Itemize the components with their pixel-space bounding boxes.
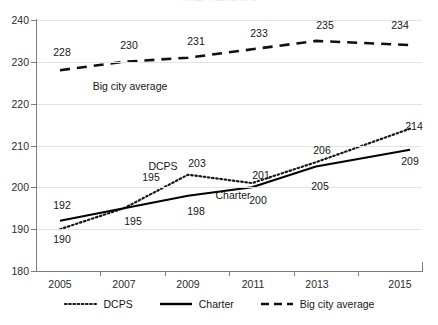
point-label-big-city-2011: 233	[250, 28, 268, 39]
chart-title: NAEP READING	[0, 0, 438, 3]
line-charter	[60, 150, 410, 221]
point-label-big-city-2007: 230	[120, 40, 138, 51]
gridline-220	[36, 104, 422, 105]
legend-swatch-dotted-icon	[64, 299, 98, 309]
x-tick-label-2009: 2009	[166, 279, 210, 290]
legend-label-big-city-average: Big city average	[300, 299, 375, 310]
chart-legend: DCPS Charter Big city average	[0, 299, 438, 310]
point-label-charter-2015: 209	[401, 156, 419, 167]
y-tick-label-210: 210	[2, 141, 29, 152]
x-tick-label-2011: 2011	[231, 279, 275, 290]
y-tick-210	[31, 146, 36, 147]
y-tick-label-190: 190	[2, 224, 29, 235]
y-tick-label-200: 200	[2, 182, 29, 193]
gridline-240	[36, 20, 422, 21]
point-label-dcps-2009: 203	[188, 158, 206, 169]
x-tick-2007	[165, 271, 166, 276]
gridline-190	[36, 229, 422, 230]
x-tick-2009	[229, 271, 230, 276]
x-tick-label-2007: 2007	[102, 279, 146, 290]
line-big-city-average	[60, 41, 410, 70]
point-label-dcps-2015: 214	[405, 121, 423, 132]
x-tick-2011	[294, 271, 295, 276]
y-tick-190	[31, 229, 36, 230]
point-label-dcps-2011: 201	[252, 170, 270, 181]
legend-swatch-solid-icon	[159, 299, 193, 309]
point-label-dcps-2007: 195	[142, 172, 160, 183]
y-tick-label-240: 240	[2, 15, 29, 26]
inline-label-big-city-average: Big city average	[93, 81, 168, 92]
legend-item-charter[interactable]: Charter	[159, 299, 234, 310]
point-label-big-city-2013: 235	[316, 20, 334, 31]
legend-item-big-city-average[interactable]: Big city average	[260, 299, 375, 310]
gridline-230	[36, 62, 422, 63]
point-label-charter-2009: 198	[187, 206, 205, 217]
x-tick-label-2013: 2013	[295, 279, 339, 290]
y-tick-label-230: 230	[2, 57, 29, 68]
legend-swatch-dashed-icon	[260, 299, 294, 309]
inline-label-dcps: DCPS	[148, 161, 177, 172]
point-label-dcps-2013: 206	[313, 145, 331, 156]
plot-area	[36, 20, 422, 271]
y-tick-220	[31, 104, 36, 105]
point-label-charter-2007: 195	[124, 216, 142, 227]
y-axis-line	[36, 19, 37, 272]
legend-label-dcps: DCPS	[104, 299, 133, 310]
point-label-big-city-2015: 234	[391, 20, 409, 31]
line-dcps	[60, 129, 410, 230]
gridline-210	[36, 146, 422, 147]
y-tick-230	[31, 62, 36, 63]
x-tick-2013	[358, 271, 359, 276]
point-label-big-city-2009: 231	[187, 36, 205, 47]
point-label-charter-2005: 192	[53, 200, 71, 211]
point-label-charter-2011: 200	[249, 195, 267, 206]
legend-label-charter: Charter	[199, 299, 234, 310]
inline-label-charter: Charter	[215, 190, 250, 201]
point-label-big-city-2005: 228	[53, 47, 71, 58]
y-tick-label-180: 180	[2, 266, 29, 277]
x-tick-label-2015: 2015	[378, 279, 422, 290]
x-tick-2005	[100, 271, 101, 276]
point-label-charter-2013: 205	[311, 181, 329, 192]
point-label-dcps-2005: 190	[53, 234, 71, 245]
y-tick-180	[31, 271, 36, 272]
legend-item-dcps[interactable]: DCPS	[64, 299, 133, 310]
x-axis-right-cap	[422, 262, 423, 272]
chart-figure: NAEP READING 240 230 220 210 200 190 180	[0, 0, 438, 325]
y-tick-200	[31, 187, 36, 188]
y-tick-label-220: 220	[2, 99, 29, 110]
x-tick-label-2005: 2005	[38, 279, 82, 290]
y-tick-240	[31, 20, 36, 21]
